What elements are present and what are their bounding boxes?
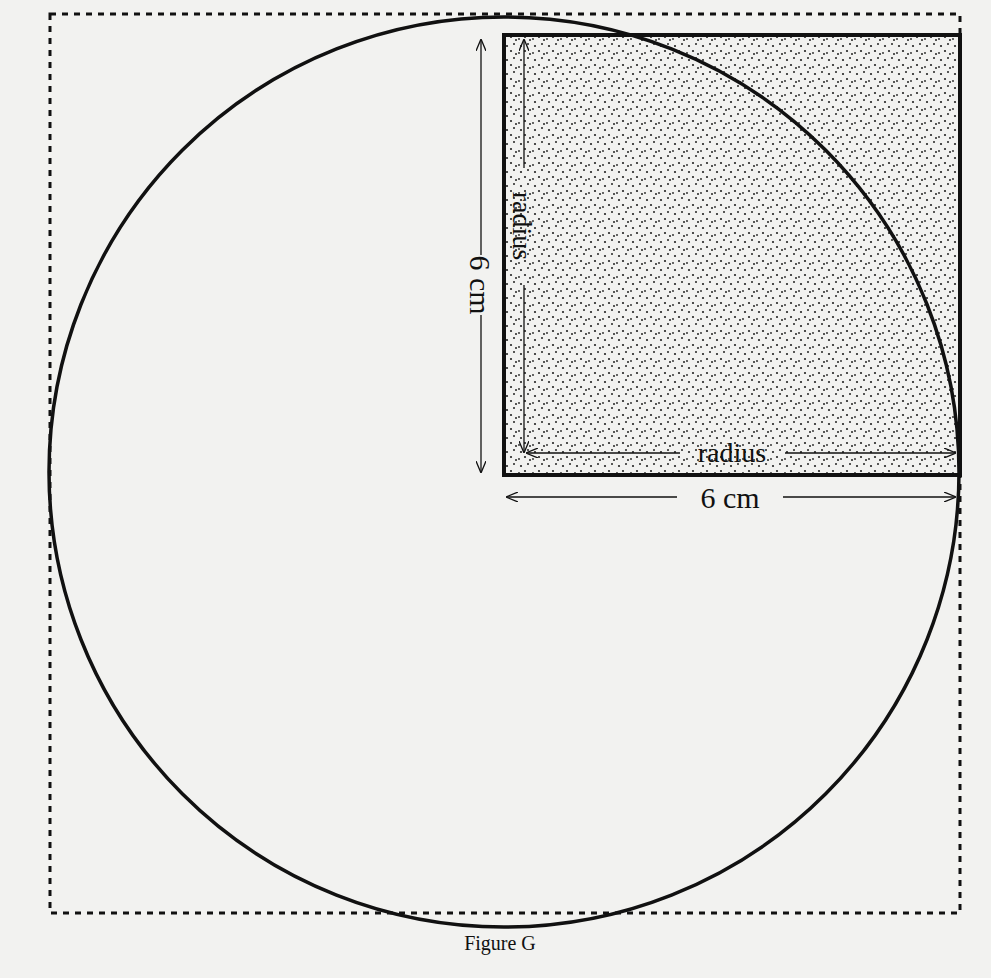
horizontal-radius-label: radius <box>698 437 766 468</box>
figure-caption: Figure G <box>464 932 536 955</box>
figure-g-diagram: 6 cm radius radius 6 cm Figure G <box>0 0 991 978</box>
shaded-square <box>504 35 960 475</box>
horizontal-6cm-label: 6 cm <box>700 481 759 514</box>
vertical-radius-label: radius <box>507 192 538 260</box>
vertical-6cm-label: 6 cm <box>464 255 497 314</box>
